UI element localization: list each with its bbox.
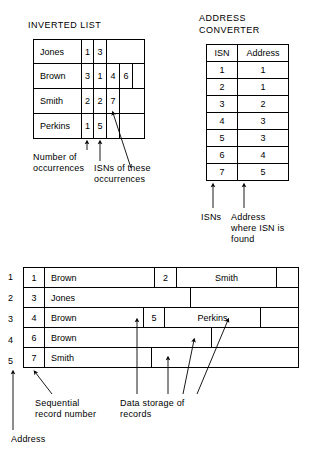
- inverted-list-name-cell: Perkins: [33, 113, 82, 139]
- address-converter-address-cell: 3: [237, 129, 289, 147]
- data-storage-empty-cell: [276, 267, 299, 288]
- address-where-isn-found-label: Address where ISN is found: [231, 212, 284, 245]
- data-storage-record-cell: Brown: [44, 327, 212, 348]
- data-storage-address-number: 4: [8, 335, 13, 346]
- data-storage-empty-cell: [190, 287, 299, 308]
- inverted-list-empty-cell: [119, 88, 145, 114]
- data-storage-of-records-label: Data storage of records: [120, 398, 185, 420]
- data-storage-address-number: 5: [8, 356, 13, 367]
- inverted-list-name-cell: Jones: [33, 39, 82, 64]
- data-storage-empty-cell: [260, 307, 299, 328]
- address-converter-address-cell: 5: [237, 163, 289, 181]
- address-label: Address: [11, 434, 45, 445]
- address-converter-address-cell: 2: [237, 95, 289, 113]
- sequential-record-number-label: Sequential record number: [35, 398, 96, 420]
- inverted-list-name-cell: Smith: [33, 88, 82, 114]
- inverted-list-isn-cell: 2: [93, 88, 107, 114]
- data-storage-address-number: 3: [8, 314, 13, 325]
- inverted-list-isn-cell: 3: [93, 39, 107, 64]
- inverted-list-title: INVERTED LIST: [28, 20, 101, 32]
- inverted-list-isn-cell: 4: [106, 63, 120, 89]
- data-storage-record-cell: Jones: [44, 287, 191, 308]
- data-storage-record-cell: Smith: [44, 347, 152, 368]
- address-converter-isn-cell: 5: [206, 129, 238, 147]
- diagram-canvas: INVERTED LIST Jones 1 3 Brown 3 1 4 6 Sm…: [0, 0, 312, 464]
- data-storage-empty-cell: [151, 347, 299, 368]
- inverted-list-isn-cell: 7: [106, 88, 120, 114]
- data-storage-seq-cell: 4: [23, 307, 45, 328]
- address-converter-isn-cell: 6: [206, 146, 238, 164]
- address-converter-address-cell: 3: [237, 112, 289, 130]
- address-converter-col-header-isn: ISN: [206, 44, 238, 62]
- number-of-occurrences-label: Number of occurrences: [33, 152, 84, 174]
- inverted-list-empty-cell: [119, 113, 145, 139]
- address-converter-address-cell: 4: [237, 146, 289, 164]
- inverted-list-isn-cell: 1: [93, 63, 107, 89]
- address-converter-isn-cell: 4: [206, 112, 238, 130]
- arrow-sequential-record-number: [35, 372, 52, 394]
- inverted-list-name-cell: Brown: [33, 63, 82, 89]
- data-storage-address-number: 1: [8, 272, 13, 283]
- inverted-list-isn-cell: 6: [119, 63, 133, 89]
- data-storage-address-number: 2: [8, 293, 13, 304]
- inverted-list-empty-cell: [132, 63, 145, 89]
- address-converter-isn-cell: 1: [206, 61, 238, 79]
- address-converter-isn-cell: 7: [206, 163, 238, 181]
- data-storage-seq-cell: 5: [143, 307, 165, 328]
- address-converter-isn-cell: 2: [206, 78, 238, 96]
- address-converter-isn-cell: 3: [206, 95, 238, 113]
- data-storage-seq-cell: 2: [154, 267, 177, 288]
- data-storage-seq-cell: 3: [23, 287, 45, 308]
- data-storage-seq-cell: 7: [23, 347, 45, 368]
- data-storage-seq-cell: 6: [23, 327, 45, 348]
- address-converter-address-cell: 1: [237, 61, 289, 79]
- data-storage-record-cell: Brown: [44, 307, 144, 328]
- data-storage-seq-cell: 1: [23, 267, 45, 288]
- address-converter-address-cell: 1: [237, 78, 289, 96]
- data-storage-record-cell: Smith: [176, 267, 277, 288]
- data-storage-record-cell: Brown: [44, 267, 155, 288]
- data-storage-record-cell: Perkins: [164, 307, 261, 328]
- inverted-list-empty-cell: [106, 113, 120, 139]
- address-converter-title: ADDRESS CONVERTER: [199, 13, 260, 36]
- isns-of-occurrences-label: ISNs of these occurrences: [94, 163, 151, 185]
- data-storage-empty-cell: [211, 327, 299, 348]
- isns-label: ISNs: [201, 212, 221, 223]
- address-converter-col-header-address: Address: [237, 44, 289, 62]
- inverted-list-empty-cell: [106, 39, 145, 64]
- inverted-list-isn-cell: 5: [93, 113, 107, 139]
